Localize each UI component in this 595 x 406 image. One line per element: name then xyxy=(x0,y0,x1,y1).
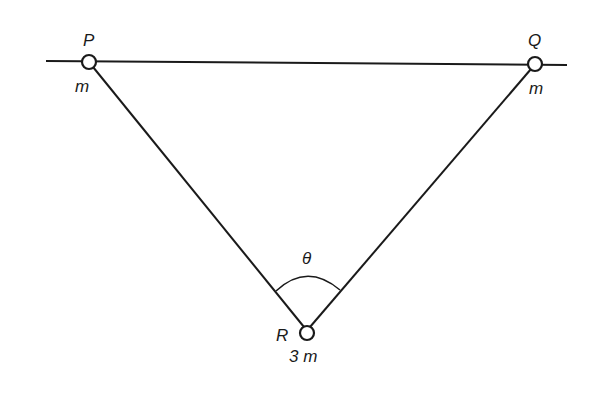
label-q: Q xyxy=(528,31,541,50)
label-q-mass: m xyxy=(529,79,543,98)
string-pr xyxy=(93,67,304,327)
label-theta: θ xyxy=(302,249,312,268)
label-r-mass: 3 m xyxy=(289,347,317,366)
label-r: R xyxy=(276,326,288,345)
label-p: P xyxy=(83,31,95,50)
particle-r xyxy=(300,326,314,340)
diagram-canvas: P m Q m θ R 3 m xyxy=(0,0,595,406)
string-qr xyxy=(310,69,531,327)
ring-q xyxy=(528,57,542,71)
angle-arc xyxy=(276,276,340,291)
horizontal-rod xyxy=(46,61,567,65)
ring-p xyxy=(82,55,96,69)
label-p-mass: m xyxy=(75,77,89,96)
